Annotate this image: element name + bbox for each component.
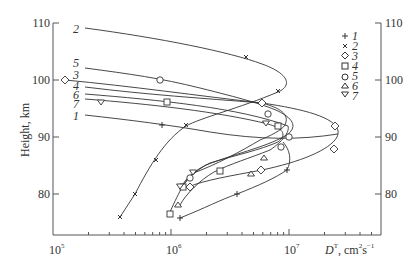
y-tick-labels-right: 110 100 90 80 xyxy=(385,16,403,201)
y-tick-80: 80 xyxy=(38,187,50,201)
legend-square-icon xyxy=(342,63,348,69)
curves xyxy=(65,28,338,218)
diamond-markers xyxy=(61,76,339,191)
curve-label-2: 2 xyxy=(73,22,79,36)
x-tick-1e6: 106 xyxy=(166,242,182,257)
y-tick-100: 100 xyxy=(32,73,50,87)
legend-triangle-down-icon xyxy=(342,92,349,97)
x-tick-1e5: 105 xyxy=(49,242,65,257)
y-tick-labels-left: 110 100 90 80 xyxy=(32,16,50,201)
x-tick-1e7: 107 xyxy=(284,242,300,257)
y-tick-right-90: 90 xyxy=(385,130,397,144)
chart: 110 100 90 80 110 100 90 80 105 106 107 … xyxy=(0,0,418,268)
legend-plus-icon xyxy=(342,33,348,39)
curve-labels: 2 5 3 4 6 7 1 xyxy=(72,22,80,123)
y-tick-right-100: 100 xyxy=(385,73,403,87)
y-tick-90: 90 xyxy=(38,130,50,144)
legend-cross-icon xyxy=(343,44,347,48)
legend-label-7: 7 xyxy=(352,89,359,103)
y-axis-label: Height, km xyxy=(18,102,32,157)
curve-label-1: 1 xyxy=(73,109,79,123)
axes xyxy=(53,23,381,235)
legend-circle-icon xyxy=(342,74,348,80)
legend: 1 2 3 4 5 6 7 xyxy=(342,29,360,103)
y-tick-110: 110 xyxy=(32,16,50,30)
x-axis-label: DT, cm2s−1 xyxy=(324,242,375,257)
y-tick-right-110: 110 xyxy=(385,16,403,30)
x-tick-labels: 105 106 107 xyxy=(49,242,300,257)
legend-diamond-icon xyxy=(342,52,349,59)
curve-1 xyxy=(85,115,338,218)
y-tick-right-80: 80 xyxy=(385,187,397,201)
legend-triangle-up-icon xyxy=(342,83,349,88)
